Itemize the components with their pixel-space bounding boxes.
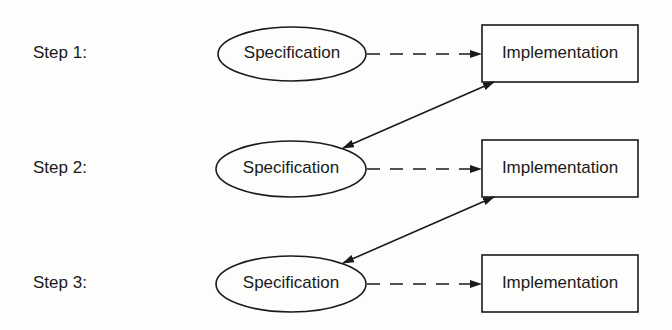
spec-label-2: Specification <box>216 158 366 178</box>
spec-label-3: Specification <box>216 273 366 293</box>
feedback-arrow-2 <box>343 197 494 263</box>
diagram-canvas: Step 1: Step 2: Step 3: Specification Sp… <box>0 0 672 330</box>
impl-label-3: Implementation <box>482 273 638 293</box>
impl-label-1: Implementation <box>482 43 638 63</box>
spec-label-1: Specification <box>218 43 366 63</box>
feedback-arrow-1 <box>343 82 494 148</box>
step-label-1: Step 1: <box>33 43 87 63</box>
impl-label-2: Implementation <box>482 158 638 178</box>
step-label-3: Step 3: <box>33 273 87 293</box>
step-label-2: Step 2: <box>33 158 87 178</box>
